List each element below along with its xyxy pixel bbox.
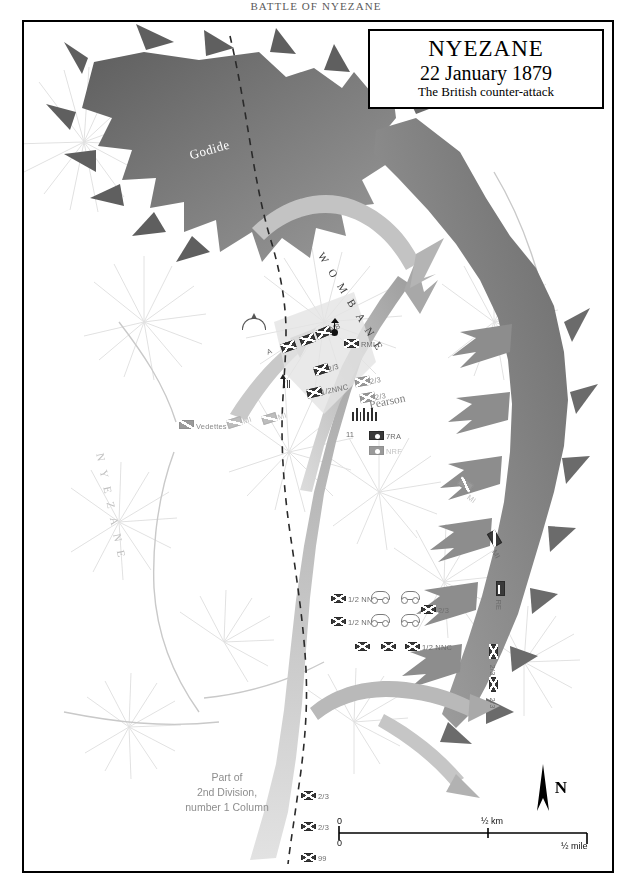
wagon-icon xyxy=(401,614,418,625)
unit-counter xyxy=(381,642,396,651)
map-date: 22 January 1879 xyxy=(420,62,552,84)
formation-note-line3: number 1 Column xyxy=(152,800,302,815)
unit-symbol-infantry xyxy=(489,644,498,659)
unit-symbol-infantry xyxy=(355,642,370,651)
unit-counter xyxy=(421,605,436,614)
running-head: BATTLE OF NYEZANE xyxy=(0,0,632,10)
unit-symbol-infantry xyxy=(381,642,396,651)
unit-counter xyxy=(331,594,346,603)
artillery-gun-count: 11 xyxy=(346,430,354,439)
unit-symbol-infantry xyxy=(489,677,498,692)
north-label: N xyxy=(539,779,583,796)
unit-label: 1/2 NNC xyxy=(422,643,452,652)
rocket-battery-icon xyxy=(352,408,379,426)
unit-counter xyxy=(344,339,359,348)
map-graphics xyxy=(24,22,612,871)
unit-label: RMLI xyxy=(361,340,380,349)
scale-bar-lines xyxy=(339,826,587,844)
unit-symbol-infantry xyxy=(344,339,359,348)
unit-label: 2/3 xyxy=(318,792,329,801)
unit-label: 99 xyxy=(318,854,327,863)
unit-symbol-infantry xyxy=(301,822,316,831)
unit-label: 2/3 xyxy=(369,375,381,386)
unit-symbol-artillery xyxy=(369,431,384,440)
wagon-icon xyxy=(371,591,388,602)
unit-counter xyxy=(489,644,498,659)
unit-label: 2/3 xyxy=(488,698,497,709)
north-arrow: N xyxy=(539,779,583,796)
unit-symbol-infantry xyxy=(331,594,346,603)
map-frame: NYEZANE 22 January 1879 The British coun… xyxy=(22,20,614,873)
unit-counter xyxy=(496,581,505,596)
map-title: NYEZANE xyxy=(428,37,544,62)
unit-symbol-infantry xyxy=(301,791,316,800)
unit-label: NRF xyxy=(386,447,402,456)
running-head-text: BATTLE OF NYEZANE xyxy=(250,0,381,10)
unit-label: 2/3 xyxy=(374,391,386,402)
unit-symbol-infantry xyxy=(301,853,316,862)
unit-counter xyxy=(489,677,498,692)
scale-km-zero: 0 xyxy=(337,816,342,826)
unit-counter xyxy=(331,617,346,626)
unit-label: RE xyxy=(494,600,503,611)
unit-counter xyxy=(301,822,316,831)
unit-counter xyxy=(405,642,420,651)
unit-counter xyxy=(369,431,384,440)
wagon-icon xyxy=(371,614,388,625)
unit-symbol-infantry xyxy=(331,617,346,626)
unit-counter xyxy=(301,791,316,800)
unit-counter xyxy=(355,642,370,651)
title-box: NYEZANE 22 January 1879 The British coun… xyxy=(368,29,604,109)
unit-symbol-artillery xyxy=(369,446,384,455)
formation-note-line1: Part of xyxy=(152,770,302,785)
unit-counter xyxy=(369,446,384,455)
unit-label: 2/3 xyxy=(318,823,329,832)
formation-note-line2: 2nd Division, xyxy=(152,785,302,800)
formation-note: Part of 2nd Division, number 1 Column xyxy=(152,770,302,816)
map-subtitle: The British counter-attack xyxy=(418,84,554,101)
unit-symbol-engineer xyxy=(496,581,505,596)
wagon-icon xyxy=(401,591,418,602)
unit-label: Vedettes xyxy=(196,422,227,431)
unit-counter xyxy=(301,853,316,862)
unit-label: 7RA xyxy=(386,432,401,441)
scale-mile-zero: 0 xyxy=(337,838,342,848)
unit-label: 2/3 xyxy=(488,665,497,676)
unit-symbol-infantry xyxy=(421,605,436,614)
scale-mile-half: ½ mile xyxy=(561,841,588,851)
scale-km-half: ½ km xyxy=(481,816,503,826)
unit-label: 2/3 xyxy=(438,606,449,615)
unit-counter xyxy=(179,420,194,429)
unit-symbol-infantry xyxy=(405,642,420,651)
unit-symbol-cavalry xyxy=(179,420,194,429)
